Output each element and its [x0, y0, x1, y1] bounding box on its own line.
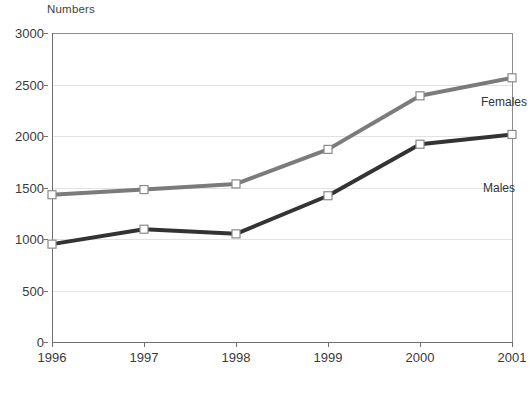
x-axis-tick-labels: 199619971998199920002001 — [52, 350, 513, 372]
data-point-marker — [140, 186, 148, 194]
x-axis-tick-label: 1997 — [130, 350, 159, 365]
data-point-marker — [232, 180, 240, 188]
x-axis-tick-label: 2000 — [406, 350, 435, 365]
y-axis-tick-mark — [44, 85, 48, 86]
y-axis-tick-mark — [44, 188, 48, 189]
y-axis-tick-label: 0 — [37, 335, 44, 350]
x-axis-tick-label: 1996 — [38, 350, 67, 365]
y-axis-tick-label: 2500 — [15, 77, 44, 92]
y-axis-tick-label: 3000 — [15, 26, 44, 41]
y-axis-tick-mark — [44, 291, 48, 292]
x-axis-tick-label: 1999 — [314, 350, 343, 365]
data-point-marker — [140, 225, 148, 233]
data-point-marker — [324, 145, 332, 153]
series-line-females — [52, 78, 512, 195]
y-axis-tick-label: 1500 — [15, 180, 44, 195]
x-axis-tick-label: 2001 — [498, 350, 527, 365]
y-axis-tick-label: 500 — [22, 283, 44, 298]
data-point-marker — [508, 130, 516, 138]
y-axis-tick-labels: 050010001500200025003000 — [0, 33, 44, 343]
data-point-marker — [416, 140, 424, 148]
series-layer — [52, 33, 513, 343]
y-axis-tick-label: 2000 — [15, 129, 44, 144]
y-axis-title: Numbers — [47, 3, 95, 15]
series-label-males: Males — [483, 181, 515, 195]
data-point-marker — [232, 230, 240, 238]
data-point-marker — [48, 240, 56, 248]
data-point-marker — [416, 92, 424, 100]
series-label-females: Females — [481, 95, 527, 109]
data-point-marker — [508, 74, 516, 82]
y-axis-tick-mark — [44, 136, 48, 137]
line-chart-figure: Numbers 050010001500200025003000 Females… — [0, 0, 530, 394]
plot-area: Females Males — [52, 33, 513, 343]
data-point-marker — [324, 192, 332, 200]
series-females — [48, 74, 516, 199]
y-axis-tick-label: 1000 — [15, 232, 44, 247]
data-point-marker — [48, 191, 56, 199]
x-axis-tick-label: 1998 — [222, 350, 251, 365]
y-axis-tick-mark — [44, 33, 48, 34]
y-axis-tick-mark — [44, 342, 48, 343]
